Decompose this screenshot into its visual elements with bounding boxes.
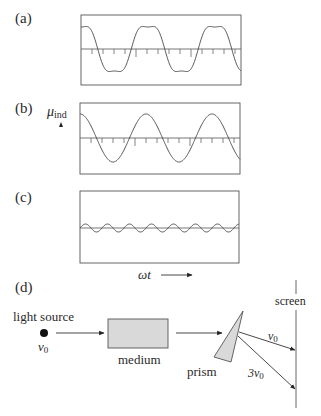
ray-1-label: ν0	[268, 329, 278, 344]
panel-b: (b) μind	[15, 100, 240, 174]
panel-b-frame	[80, 103, 240, 174]
nonlinear-medium-block	[108, 319, 168, 348]
panel-a-ticks	[92, 49, 235, 57]
nu-subscript: 0	[44, 345, 49, 355]
panel-c: (c) ωt	[15, 189, 239, 282]
panel-d-setup: (d) light source ν0 medium prism ν0 3ν0 …	[13, 279, 306, 408]
screen-label: screen	[275, 294, 306, 308]
panel-c-frame	[80, 191, 239, 263]
ray-2-label: 3ν0	[247, 366, 264, 381]
ray-1-subscript: 0	[273, 334, 278, 344]
up-arrow-icon	[59, 122, 63, 127]
ray-2-3nu: 3ν	[247, 366, 260, 380]
third-harmonic-ray-arrow	[238, 336, 295, 389]
nonlinear-optics-figure: (a) (b) μind (c) ωt (d) light source ν0 …	[0, 0, 321, 416]
omega-t-label: ωt	[138, 267, 151, 282]
light-source-dot-icon	[40, 329, 48, 337]
mu-symbol: μ	[46, 104, 54, 119]
panel-a-frame	[81, 15, 241, 85]
mu-subscript: ind	[54, 109, 67, 120]
ray-2-subscript: 0	[259, 371, 264, 381]
light-source-label: light source	[13, 309, 74, 324]
panel-a-label: (a)	[15, 10, 32, 27]
medium-label: medium	[118, 352, 161, 367]
panel-c-label: (c)	[15, 189, 32, 206]
panel-d-label: (d)	[15, 279, 33, 296]
panel-b-label: (b)	[15, 100, 33, 117]
source-frequency-label: ν0	[38, 339, 49, 355]
mu-ind-label: μind	[46, 104, 67, 120]
prism-label: prism	[187, 364, 217, 379]
panel-b-ticks	[91, 138, 234, 146]
panel-a: (a)	[15, 10, 241, 85]
fundamental-ray-arrow	[239, 332, 295, 350]
